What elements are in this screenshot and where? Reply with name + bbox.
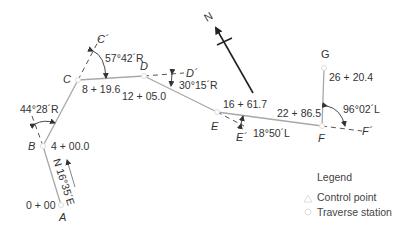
station-label-d: 12 + 05.0 bbox=[122, 90, 166, 102]
point-label-d-prime: D´ bbox=[186, 67, 198, 79]
legend-item-control-point: Control point bbox=[317, 191, 377, 203]
point-label-c-prime: C´ bbox=[97, 33, 109, 45]
legend-item-traverse-station: Traverse station bbox=[317, 206, 392, 218]
station-label-f: 22 + 86.5 bbox=[277, 107, 321, 119]
line-f-g bbox=[322, 69, 324, 126]
point-label-f-prime: F´ bbox=[362, 125, 373, 137]
legend: Legend Control point Traverse station bbox=[304, 171, 392, 218]
legend-title: Legend bbox=[317, 171, 352, 183]
angle-label-d: 30°15´R bbox=[179, 79, 218, 91]
station-label-b: 4 + 00.0 bbox=[51, 140, 89, 152]
arc-d bbox=[171, 74, 172, 86]
point-label-a: A bbox=[58, 211, 66, 223]
point-label-c: C bbox=[63, 73, 71, 85]
angle-label-e: 18°50´L bbox=[253, 127, 290, 139]
point-label-g: G bbox=[321, 48, 330, 60]
north-label: N bbox=[202, 9, 215, 23]
station-label-g: 26 + 20.4 bbox=[329, 71, 373, 83]
station-label-a: 0 + 00 bbox=[26, 199, 56, 211]
station-label-c: 8 + 19.6 bbox=[82, 83, 120, 95]
circle-icon bbox=[305, 209, 311, 215]
angle-label-c: 57°42´R bbox=[105, 52, 144, 64]
point-label-e-prime: E´ bbox=[236, 131, 247, 143]
point-label-e: E bbox=[211, 120, 219, 132]
angle-label-f: 96°02´L bbox=[343, 103, 380, 115]
station-marker-g bbox=[322, 66, 327, 71]
extension-d bbox=[144, 73, 184, 76]
station-marker-e bbox=[215, 110, 220, 115]
station-label-e: 16 + 61.7 bbox=[223, 98, 267, 110]
station-marker-f bbox=[320, 124, 325, 129]
point-label-b: B bbox=[28, 140, 35, 152]
station-marker-c bbox=[76, 78, 81, 83]
traverse-diagram: N A B C D E F G C´ D´ E´ F´ 0 + 00 4 + 0… bbox=[0, 0, 410, 232]
arc-b bbox=[35, 121, 55, 124]
triangle-icon bbox=[304, 195, 312, 202]
station-marker-d bbox=[142, 74, 147, 79]
point-label-f: F bbox=[318, 132, 326, 144]
extension-f bbox=[322, 126, 362, 131]
arc-e bbox=[241, 116, 243, 124]
line-c-d bbox=[78, 76, 144, 80]
angle-label-b: 44°28´R bbox=[20, 103, 59, 115]
north-arrow-shaft bbox=[216, 28, 253, 93]
station-marker-b bbox=[41, 144, 46, 149]
station-marker-a bbox=[59, 203, 64, 208]
